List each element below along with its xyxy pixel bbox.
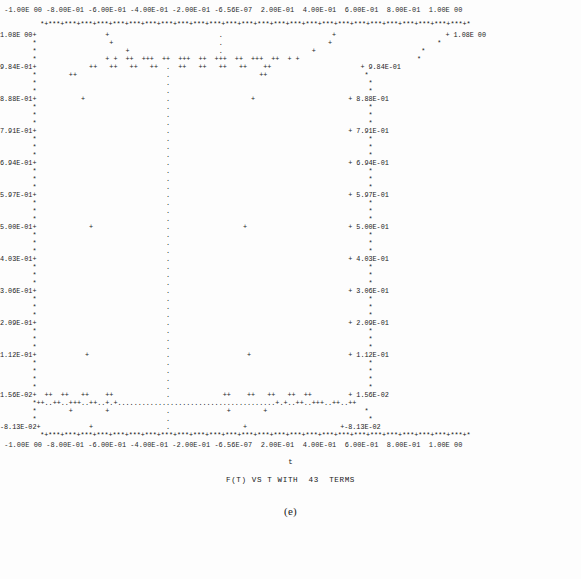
plot-data-row: 7.91E-01+ . + 7.91E-01 (0, 127, 581, 135)
plot-data-row: * . * (0, 215, 581, 223)
plot-data-row: * . * (0, 79, 581, 87)
plot-data-row: * . * (0, 167, 581, 175)
plot-data-row: * . * (0, 247, 581, 255)
plot-baseline-grid-row: *++..++..+++..++..+.+...................… (0, 399, 581, 407)
x-axis-name: t (0, 458, 581, 466)
plot-data-row: * . * (0, 199, 581, 207)
plot-data-row: * . * (0, 343, 581, 351)
plot-data-row: * . * (0, 119, 581, 127)
plot-data-row: 2.09E-01+ . + 2.09E-01 (0, 319, 581, 327)
plot-data-row: * . * (0, 143, 581, 151)
plot-data-row: * . * (0, 279, 581, 287)
plot-border-row: *+***+***+***+***+***+***+***+***+***+**… (0, 20, 581, 28)
plot-data-row: * . * (0, 375, 581, 383)
plot-data-row: 1.12E-01+ + . + + 1.12E-01 (0, 351, 581, 359)
plot-data-row: * . * (0, 183, 581, 191)
x-axis-tick-labels-bottom: -1.00E 00 -8.00E-01 -6.00E-01 -4.00E-01 … (0, 441, 581, 449)
plot-data-row: * . * (0, 359, 581, 367)
plot-data-row: * + + . + + * (0, 407, 581, 415)
plot-data-row: 1.56E-02+ ++ ++ ++ ++ . ++ ++ ++ ++ ++ +… (0, 391, 581, 399)
plot-data-row: * . * (0, 327, 581, 335)
plot-data-row: 5.97E-01+ . + 5.97E-01 (0, 191, 581, 199)
plot-data-row: * + + ++ +++ ++ +++ ++ +++ ++ +++ ++ + +… (0, 55, 581, 63)
plot-data-row: * . * (0, 303, 581, 311)
plot-data-row: * . * (0, 383, 581, 391)
plot-data-row: * ++ . ++ * (0, 71, 581, 79)
plot-data-row: * . * (0, 311, 581, 319)
plot-data-row: * . * (0, 231, 581, 239)
plot-data-row: 6.94E-01+ . + 6.94E-01 (0, 159, 581, 167)
plot-data-row: * + . + * (0, 47, 581, 55)
plot-data-row: * . * (0, 295, 581, 303)
plot-data-row: 8.88E-01+ + . + + 8.88E-01 (0, 95, 581, 103)
plot-data-row: * . * (0, 335, 581, 343)
plot-data-row: * . * (0, 207, 581, 215)
plot-title: F(T) VS T WITH 43 TERMS (0, 476, 581, 484)
plot-data-row: * . * (0, 111, 581, 119)
plot-data-row: -8.13E-02+ + . + +-8.13E-02 (0, 423, 581, 431)
plot-data-row: * . * (0, 175, 581, 183)
figure-label: (e) (0, 505, 581, 517)
plot-data-row: 5.00E-01+ + . + + 5.00E-01 (0, 223, 581, 231)
plot-data-row: * . * (0, 151, 581, 159)
plot-data-row: 3.06E-01+ . + 3.06E-01 (0, 287, 581, 295)
plot-data-row: * . * (0, 103, 581, 111)
plot-data-row: * . * (0, 239, 581, 247)
plot-data-row: 9.84E-01+ ++ ++ ++ ++ . ++ ++ ++ ++ ++ +… (0, 63, 581, 71)
plot-data-row: 1.08E 00+ + . + + 1.08E 00 (0, 31, 581, 39)
plot-data-row: * . * (0, 87, 581, 95)
plot-border-row: *+***+***+***+***+***+***+***+***+***+**… (0, 431, 581, 439)
x-axis-tick-labels-top: -1.00E 00 -8.00E-01 -6.00E-01 -4.00E-01 … (0, 6, 581, 14)
ascii-plot-sheet: -1.00E 00 -8.00E-01 -6.00E-01 -4.00E-01 … (0, 0, 581, 579)
plot-data-row: * + . + * (0, 39, 581, 47)
plot-data-row: * . * (0, 271, 581, 279)
plot-data-row: * . * (0, 415, 581, 423)
plot-data-row: * . * (0, 263, 581, 271)
plot-data-row: * . * (0, 367, 581, 375)
plot-data-row: * . * (0, 135, 581, 143)
plot-data-row: 4.03E-01+ . + 4.03E-01 (0, 255, 581, 263)
